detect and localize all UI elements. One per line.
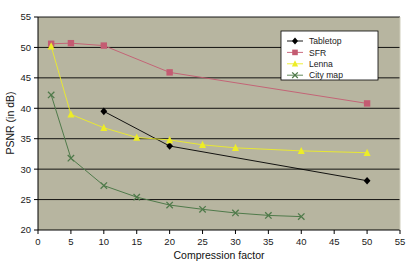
data-point-marker <box>364 100 370 106</box>
chart-legend[interactable]: TabletopSFRLennaCity map <box>281 31 378 80</box>
y-tick-label: 50 <box>20 42 31 53</box>
y-tick-label: 35 <box>20 133 31 144</box>
legend-label-lenna: Lenna <box>309 59 333 69</box>
legend-label-tabletop: Tabletop <box>309 36 342 46</box>
x-tick-label: 50 <box>362 236 373 247</box>
y-tick-label: 20 <box>20 224 31 235</box>
x-tick-label: 10 <box>99 236 110 247</box>
y-tick-label: 45 <box>20 72 31 83</box>
x-tick-label: 20 <box>164 236 175 247</box>
legend-label-city-map: City map <box>309 70 343 80</box>
y-tick-label: 25 <box>20 194 31 205</box>
x-axis-title: Compression factor <box>173 249 265 261</box>
x-tick-label: 5 <box>68 236 73 247</box>
x-tick-label: 45 <box>329 236 340 247</box>
data-point-marker <box>68 40 74 46</box>
legend-label-sfr: SFR <box>309 48 326 58</box>
y-tick-label: 30 <box>20 164 31 175</box>
data-point-marker <box>101 42 107 48</box>
psnr-compression-chart: 2025303540455055 0510152025303540455055 … <box>0 0 416 274</box>
legend-marker-sfr <box>292 50 298 56</box>
x-tick-label: 40 <box>296 236 307 247</box>
y-tick-label: 40 <box>20 103 31 114</box>
x-tick-label: 0 <box>35 236 40 247</box>
x-tick-label: 35 <box>263 236 274 247</box>
x-tick-label: 15 <box>131 236 142 247</box>
chart-canvas: 2025303540455055 0510152025303540455055 … <box>0 0 416 274</box>
x-tick-label: 30 <box>230 236 241 247</box>
y-axis-title: PSNR (in dB) <box>4 91 16 154</box>
y-tick-label: 55 <box>20 11 31 22</box>
x-tick-label: 25 <box>197 236 208 247</box>
data-point-marker <box>166 69 172 75</box>
x-tick-label: 55 <box>395 236 406 247</box>
